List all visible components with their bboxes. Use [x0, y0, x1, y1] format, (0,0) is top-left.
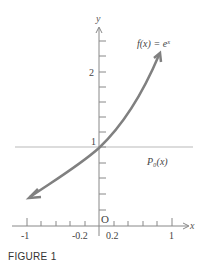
x-tick-label-neg1: -1 — [21, 230, 29, 241]
p0-label: P₀(x) — [146, 156, 168, 168]
figure-1-plot: y x O -1 -0.2 0.2 1 1 2 f(x) = eˣ P₀(x) — [0, 0, 208, 271]
x-tick-label-1: 1 — [169, 230, 174, 241]
exp-curve — [30, 55, 159, 197]
y-ticks — [99, 41, 106, 210]
y-tick-label-1: 1 — [91, 136, 96, 147]
exp-curve-label: f(x) = eˣ — [137, 38, 171, 50]
y-axis-label: y — [95, 13, 101, 24]
figure-caption: FIGURE 1 — [8, 251, 57, 262]
x-tick-label-0.2: 0.2 — [106, 230, 119, 241]
x-axis-label: x — [189, 220, 195, 231]
origin-label: O — [101, 213, 109, 225]
x-tick-label-neg0.2: -0.2 — [72, 230, 88, 241]
y-tick-label-2: 2 — [89, 67, 94, 78]
